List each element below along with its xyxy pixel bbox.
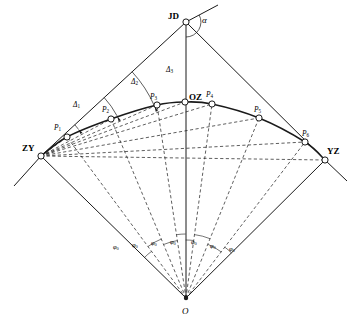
label-jd: JD (168, 12, 179, 21)
phi-sector-arc-1 (145, 251, 152, 257)
point-marker-p4 (209, 101, 215, 107)
point-marker-oz (182, 99, 188, 105)
radius-to-p6 (186, 142, 305, 298)
label-phi-1: φ0 (113, 244, 119, 252)
label-o: O (182, 307, 189, 316)
label-zy: ZY (22, 144, 35, 153)
deflection-chord-zy-p2 (41, 119, 111, 156)
tangent-back (41, 22, 186, 156)
label-p1: P1 (54, 124, 61, 132)
label-p3: P3 (150, 93, 157, 101)
radius-to-zy (41, 156, 186, 298)
solid-lines-group (14, 5, 347, 298)
point-marker-jd (183, 19, 189, 25)
label-phi-3: φ0 (151, 240, 157, 248)
label-delta-3: Δ3 (166, 66, 173, 74)
radius-to-yz (186, 160, 325, 298)
circular-curve-group (41, 102, 325, 160)
point-marker-p3 (154, 102, 160, 108)
label-delta-1: Δ1 (73, 101, 80, 109)
point-marker-p6 (302, 139, 308, 145)
point-marker-p1 (64, 134, 70, 140)
label-alpha: α (202, 16, 207, 25)
label-p4: P4 (206, 91, 213, 99)
point-marker-yz (322, 157, 328, 163)
label-p5: P5 (254, 106, 261, 114)
point-marker-o (184, 296, 188, 300)
radius-to-p1 (67, 137, 186, 298)
dashed-lines-group (41, 102, 325, 298)
label-yz: YZ (327, 147, 340, 156)
curve-layout-diagram: JDZYP1P2P3OZP4P5P6YZOαΔ1Δ2Δ3φ0φ0φ0φ0φ0φ0… (0, 0, 352, 324)
diagram-canvas (0, 0, 352, 324)
label-p2: P2 (102, 106, 109, 114)
tangent-forward-extension (325, 160, 347, 181)
label-delta-2: Δ2 (131, 78, 138, 86)
delta1-arc (75, 125, 78, 129)
label-phi-7: φ0 (229, 246, 235, 254)
radius-to-p2 (111, 119, 186, 298)
phi-sector-arc-6 (195, 235, 211, 239)
label-phi-4: φ0 (170, 239, 176, 247)
tangent-back-extension (14, 156, 41, 186)
label-phi-6: φ0 (210, 243, 216, 251)
label-oz: OZ (189, 93, 202, 102)
point-marker-p5 (256, 115, 262, 121)
label-phi-2: φ0 (132, 242, 138, 250)
deflection-chord-zy-yz (41, 156, 325, 160)
circular-curve (41, 102, 325, 160)
label-phi-5: φ0 (191, 239, 197, 247)
point-marker-p2 (108, 116, 114, 122)
phi-sector-arc-4 (177, 234, 186, 235)
radius-to-p3 (157, 105, 186, 298)
label-p6: P6 (302, 130, 309, 138)
point-marker-zy (38, 153, 44, 159)
